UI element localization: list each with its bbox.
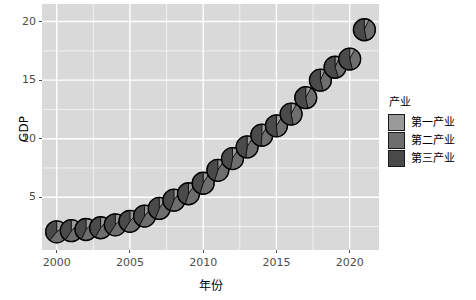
legend-key-swatch (388, 132, 405, 149)
legend-key-swatch (388, 150, 405, 167)
legend: 产业 第一产业第二产业第三产业 (388, 96, 476, 167)
legend-item-label: 第二产业 (411, 134, 455, 147)
x-tick-mark (129, 250, 130, 253)
y-tick-label: 5 (0, 190, 36, 203)
pie-marker (339, 48, 361, 70)
y-axis-title: GDP (17, 99, 31, 159)
x-axis-title: 年份 (42, 276, 379, 293)
x-tick-mark (349, 250, 350, 253)
y-tick-label: 10 (0, 132, 36, 145)
legend-items: 第一产业第二产业第三产业 (388, 113, 476, 167)
legend-item-2[interactable]: 第二产业 (388, 131, 476, 149)
x-tick-label: 2015 (251, 256, 301, 269)
x-tick-mark (276, 250, 277, 253)
legend-key-swatch (388, 114, 405, 131)
legend-item-label: 第一产业 (411, 116, 455, 129)
x-tick-label: 2010 (178, 256, 228, 269)
x-tick-mark (203, 250, 204, 253)
pie-marker (295, 87, 317, 109)
scatterpie-chart: GDP 年份 产业 第一产业第二产业第三产业 51015202000200520… (0, 0, 476, 300)
legend-item-label: 第三产业 (411, 152, 455, 165)
y-tick-label: 20 (0, 15, 36, 28)
panel-background (42, 4, 379, 250)
y-tick-mark (39, 197, 42, 198)
legend-title: 产业 (389, 96, 476, 109)
legend-item-1[interactable]: 第一产业 (388, 113, 476, 131)
x-tick-mark (56, 250, 57, 253)
legend-item-3[interactable]: 第三产业 (388, 149, 476, 167)
x-tick-label: 2020 (325, 256, 375, 269)
y-tick-mark (39, 21, 42, 22)
y-tick-mark (39, 138, 42, 139)
pie-marker (353, 19, 375, 41)
x-tick-label: 2005 (105, 256, 155, 269)
y-tick-mark (39, 80, 42, 81)
y-tick-label: 15 (0, 73, 36, 86)
x-tick-label: 2000 (32, 256, 82, 269)
